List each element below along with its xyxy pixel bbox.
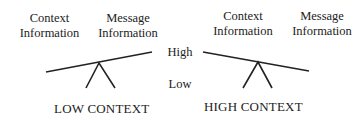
left-message-label: Message Information bbox=[88, 11, 168, 41]
right-context-label: Context Information bbox=[203, 9, 283, 39]
high-label: High bbox=[160, 45, 200, 60]
high-context-caption: HIGH CONTEXT bbox=[204, 99, 303, 115]
right-message-label: Message Information bbox=[282, 9, 355, 39]
left-fulcrum bbox=[86, 63, 115, 88]
low-context-caption: LOW CONTEXT bbox=[54, 101, 149, 117]
right-fulcrum bbox=[243, 62, 272, 88]
right-beam bbox=[203, 52, 309, 71]
low-label: Low bbox=[160, 77, 200, 92]
left-context-label: Context Information bbox=[12, 11, 87, 41]
